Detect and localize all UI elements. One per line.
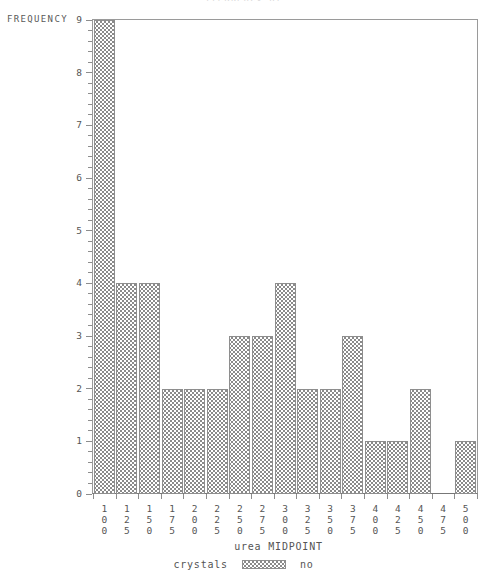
x-tick-label-475: 475 (431, 503, 455, 536)
x-tick-125 (116, 494, 117, 499)
x-tick-label-150: 150 (137, 503, 161, 536)
x-tick-label-200: 200 (183, 503, 207, 536)
y-tick-8 (86, 72, 92, 73)
legend-value-no: no (300, 559, 314, 570)
bar-325[interactable] (297, 389, 318, 494)
bar-425[interactable] (387, 441, 408, 494)
y-tick-minor (88, 30, 92, 31)
bar-450[interactable] (410, 389, 431, 494)
bar-150[interactable] (139, 283, 160, 494)
y-tick-2 (86, 388, 92, 389)
bar-275[interactable] (252, 336, 273, 494)
x-tick-225 (206, 494, 207, 499)
x-tick-label-375: 375 (341, 503, 365, 536)
y-tick-7 (86, 125, 92, 126)
y-tick-minor (88, 483, 92, 484)
y-tick-label-4: 4 (2, 278, 82, 288)
y-tick-minor (88, 62, 92, 63)
x-tick-label-175: 175 (160, 503, 184, 536)
y-tick-5 (86, 230, 92, 231)
y-tick-minor (88, 367, 92, 368)
y-tick-minor (88, 156, 92, 157)
x-tick-end (477, 494, 478, 499)
x-tick-300 (274, 494, 275, 499)
y-tick-label-0: 0 (2, 489, 82, 499)
y-tick-label-2: 2 (2, 384, 82, 394)
x-tick-label-225: 225 (205, 503, 229, 536)
x-axis-title: urea MIDPOINT (0, 541, 487, 552)
y-tick-minor (88, 41, 92, 42)
bar-250[interactable] (229, 336, 250, 494)
y-tick-minor (88, 262, 92, 263)
plot-area (93, 20, 477, 494)
y-tick-minor (88, 51, 92, 52)
y-tick-minor (88, 304, 92, 305)
bar-225[interactable] (207, 389, 228, 494)
x-tick-label-275: 275 (250, 503, 274, 536)
y-tick-minor (88, 188, 92, 189)
y-tick-minor (88, 325, 92, 326)
y-tick-minor (88, 409, 92, 410)
y-tick-minor (88, 293, 92, 294)
chart-title: frequency of (0, 0, 487, 1)
x-tick-label-450: 450 (409, 503, 433, 536)
y-tick-0 (86, 494, 92, 495)
y-tick-label-3: 3 (2, 331, 82, 341)
chart-legend: crystals no (0, 559, 487, 570)
y-tick-minor (88, 104, 92, 105)
x-tick-175 (161, 494, 162, 499)
x-tick-325 (296, 494, 297, 499)
y-tick-minor (88, 430, 92, 431)
y-tick-3 (86, 336, 92, 337)
y-tick-minor (88, 199, 92, 200)
bar-200[interactable] (184, 389, 205, 494)
bar-350[interactable] (320, 389, 341, 494)
y-tick-minor (88, 241, 92, 242)
y-tick-label-6: 6 (2, 173, 82, 183)
y-tick-minor (88, 114, 92, 115)
y-tick-label-9: 9 (2, 15, 82, 25)
y-tick-label-7: 7 (2, 120, 82, 130)
x-tick-label-325: 325 (296, 503, 320, 536)
y-tick-minor (88, 346, 92, 347)
y-tick-6 (86, 178, 92, 179)
y-tick-minor (88, 251, 92, 252)
y-tick-minor (88, 146, 92, 147)
x-tick-375 (341, 494, 342, 499)
x-tick-475 (432, 494, 433, 499)
x-tick-label-425: 425 (386, 503, 410, 536)
y-tick-4 (86, 283, 92, 284)
x-tick-label-250: 250 (228, 503, 252, 536)
y-tick-1 (86, 441, 92, 442)
x-tick-350 (319, 494, 320, 499)
y-tick-minor (88, 135, 92, 136)
x-tick-label-400: 400 (363, 503, 387, 536)
y-tick-9 (86, 20, 92, 21)
bar-500[interactable] (455, 441, 476, 494)
x-tick-250 (229, 494, 230, 499)
x-tick-100 (93, 494, 94, 499)
bar-100[interactable] (94, 20, 115, 494)
x-tick-450 (409, 494, 410, 499)
x-tick-200 (183, 494, 184, 499)
y-tick-minor (88, 378, 92, 379)
y-tick-minor (88, 220, 92, 221)
legend-title: crystals (173, 559, 228, 570)
y-tick-minor (88, 209, 92, 210)
y-tick-minor (88, 399, 92, 400)
y-tick-minor (88, 420, 92, 421)
y-tick-minor (88, 472, 92, 473)
x-tick-500 (454, 494, 455, 499)
x-tick-label-125: 125 (115, 503, 139, 536)
x-tick-425 (387, 494, 388, 499)
y-tick-minor (88, 167, 92, 168)
bar-300[interactable] (275, 283, 296, 494)
bar-400[interactable] (365, 441, 386, 494)
bar-125[interactable] (116, 283, 137, 494)
bar-175[interactable] (162, 389, 183, 494)
y-tick-minor (88, 93, 92, 94)
bar-375[interactable] (342, 336, 363, 494)
x-tick-150 (138, 494, 139, 499)
y-tick-minor (88, 83, 92, 84)
x-tick-label-500: 500 (454, 503, 478, 536)
